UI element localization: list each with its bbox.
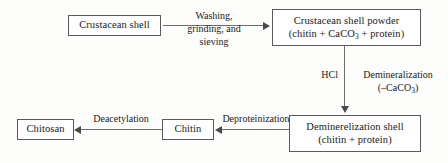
node-chitosan-label: Chitosan — [26, 123, 64, 135]
edge-label-hcl: HCl — [304, 68, 338, 81]
process-flow-diagram: Crustacean shell Crustacean shell powder… — [0, 0, 448, 163]
edge-label-deacetylation-text: Deacetylation — [93, 113, 149, 124]
arrow-down-icon — [341, 106, 349, 113]
arrow-right-icon — [263, 22, 270, 30]
edge-label-deproteinization: Deproteinization — [218, 112, 294, 125]
node-demineralized-shell-title: Deminerelization shell — [306, 121, 404, 133]
node-demineralized-shell-composition: (chitin + protein) — [318, 134, 392, 146]
subscript-three: 3 — [355, 32, 359, 41]
edge-label-deproteinization-text: Deproteinization — [222, 113, 289, 124]
arrow-left-icon — [74, 126, 81, 134]
edge-label-hcl-text: HCl — [321, 69, 338, 80]
node-demineralized-shell: Deminerelization shell (chitin + protein… — [289, 115, 421, 152]
node-crustacean-shell-powder: Crustacean shell powder (chitin + CaCO3 … — [272, 9, 421, 46]
edge-label-washing-line2: grinding, and — [168, 22, 260, 35]
node-chitin-label: Chitin — [175, 123, 202, 135]
node-crustacean-shell: Crustacean shell — [68, 15, 161, 36]
node-shell-powder-title: Crustacean shell powder — [294, 15, 400, 27]
edge-demineralized-to-chitin-line — [222, 129, 289, 130]
node-crustacean-shell-label: Crustacean shell — [79, 19, 150, 31]
edge-label-washing: Washing, grinding, and sieving — [168, 9, 260, 48]
edge-label-demineralization-line2: (–CaCO3) — [350, 81, 446, 94]
node-chitin: Chitin — [162, 119, 214, 140]
edge-label-demineralization: Demineralization (–CaCO3) — [350, 68, 446, 94]
node-shell-powder-composition: (chitin + CaCO3 + protein) — [289, 28, 405, 40]
edge-label-demineralization-line1: Demineralization — [350, 68, 446, 81]
edge-label-washing-line1: Washing, — [168, 9, 260, 22]
edge-powder-to-demineralized-line — [344, 46, 345, 108]
subscript-three: 3 — [411, 86, 415, 95]
edge-label-washing-line3: sieving — [168, 35, 260, 48]
node-chitosan: Chitosan — [17, 119, 74, 140]
edge-label-deacetylation: Deacetylation — [82, 112, 160, 125]
edge-chitin-to-chitosan-line — [81, 129, 162, 130]
arrow-left-icon — [215, 126, 222, 134]
